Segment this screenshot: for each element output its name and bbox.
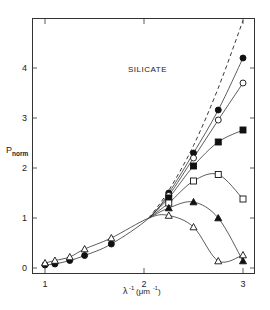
- marker-square-open: [240, 196, 246, 202]
- data-curves: [45, 21, 243, 266]
- marker-circle-filled: [108, 241, 114, 247]
- marker-triangle-open: [215, 258, 222, 264]
- marker-circle-filled: [215, 107, 221, 113]
- marker-square-open: [215, 172, 221, 178]
- marker-square-open: [191, 178, 197, 184]
- marker-circle-filled: [82, 253, 88, 259]
- marker-triangle-open: [240, 252, 247, 258]
- marker-circle-open: [191, 155, 197, 161]
- reference-dashed-curve: [149, 21, 243, 219]
- marker-triangle-open: [66, 254, 73, 260]
- y-axis-label-sub: norm: [12, 150, 28, 157]
- y-axis-label: P norm: [6, 145, 28, 157]
- marker-circle-open: [215, 117, 221, 123]
- marker-square-filled: [240, 127, 246, 133]
- marker-triangle-filled: [240, 258, 247, 264]
- marker-circle-open: [240, 80, 246, 86]
- data-markers: [42, 55, 247, 268]
- marker-square-filled: [215, 139, 221, 145]
- x-tick-label: 3: [241, 279, 246, 289]
- y-tick-label: 3: [22, 113, 27, 123]
- chart-canvas: 12301234 SILICATE P norm λ -1 (μm -1 ): [0, 0, 270, 310]
- chart-title: SILICATE: [128, 65, 167, 74]
- curve-filled-circle: [45, 58, 243, 265]
- axis-ticks: [33, 19, 255, 274]
- x-axis-label-unit: (μm: [136, 287, 150, 296]
- marker-circle-filled: [240, 55, 246, 61]
- tick-labels: 12301234: [22, 63, 246, 289]
- x-axis-label-main: λ: [123, 286, 128, 296]
- y-tick-label: 1: [22, 213, 27, 223]
- x-axis-label-sup: -1: [129, 285, 135, 291]
- marker-square-filled: [191, 163, 197, 169]
- plot-frame: [33, 19, 255, 274]
- marker-triangle-open: [81, 246, 88, 252]
- y-tick-label: 0: [22, 263, 27, 273]
- marker-triangle-open: [108, 235, 115, 241]
- curve-filled-triangle: [149, 202, 243, 261]
- x-axis-label: λ -1 (μm -1 ): [123, 285, 161, 296]
- y-tick-label: 2: [22, 163, 27, 173]
- y-tick-label: 4: [22, 63, 27, 73]
- curve-open-circle: [149, 83, 243, 218]
- x-tick-label: 1: [43, 279, 48, 289]
- x-axis-label-unit-close: ): [158, 287, 161, 296]
